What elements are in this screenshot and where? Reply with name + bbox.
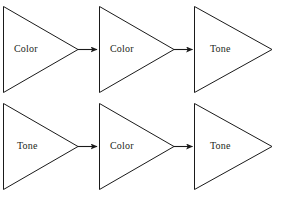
node-shape-row0-col2[interactable] <box>195 7 273 93</box>
node-label-row1-col1: Color <box>110 141 134 151</box>
node-label-row1-col0: Tone <box>17 141 38 151</box>
node-label-row0-col0: Color <box>14 44 38 54</box>
node-label-row0-col1: Color <box>110 44 134 54</box>
diagram-canvas: Color Color Tone Tone Color Tone <box>0 0 284 198</box>
node-shape-row1-col2[interactable] <box>195 104 273 190</box>
node-label-row1-col2: Tone <box>210 141 231 151</box>
diagram-svg <box>0 0 284 198</box>
node-label-row0-col2: Tone <box>210 44 231 54</box>
node-shape-row1-col0[interactable] <box>4 104 79 190</box>
